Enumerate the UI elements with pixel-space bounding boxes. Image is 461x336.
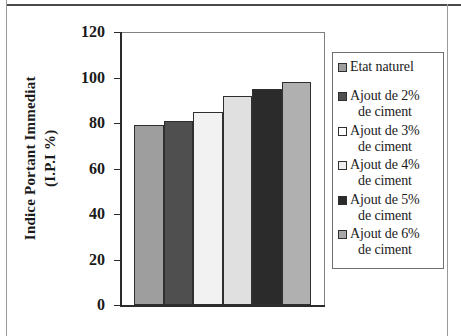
legend-item-label: Ajout de 6%de ciment [350,226,420,258]
legend-swatch-icon [338,127,347,136]
y-tick-40: 40 [114,214,120,215]
bar [223,96,253,305]
legend-swatch-icon [338,196,347,205]
legend-item[interactable]: Ajout de 2%de ciment [338,88,439,120]
y-tick-60: 60 [114,169,120,170]
y-tick-label-100: 100 [81,69,105,87]
legend-item-label-line2: de ciment [350,208,420,224]
plot-area: 120100806040200 [120,32,325,307]
legend-swatch-icon [338,161,347,170]
legend-item-label: Ajout de 3%de ciment [350,123,420,155]
page-edge-top-rule [7,4,461,6]
legend-item-label-line1: Ajout de 4% [350,157,420,172]
y-tick-120: 120 [114,32,120,33]
y-tick-label-0: 0 [97,296,105,314]
bar [252,89,282,305]
legend-item-label: Ajout de 4%de ciment [350,157,420,189]
y-tick-label-60: 60 [89,160,105,178]
legend-item-label-line1: Ajout de 2% [350,88,420,103]
legend-swatch-icon [338,92,347,101]
y-tick-label-120: 120 [81,23,105,41]
y-tick-0: 0 [114,305,120,306]
legend-item-label-line1: Etat naturel [350,59,414,74]
legend-swatch-icon [338,230,347,239]
y-tick-100: 100 [114,78,120,79]
legend-item-label-line2: de ciment [350,104,420,120]
legend-item-label: Ajout de 5%de ciment [350,192,420,224]
y-axis-title: Indice Portant Immediat (I.P.I %) [20,33,61,283]
y-axis-title-line1: Indice Portant Immediat [22,76,38,240]
legend-item[interactable]: Ajout de 4%de ciment [338,157,439,189]
bar [134,125,164,305]
page-edge-right-rule [447,4,448,336]
legend-item-label-line2: de ciment [350,139,420,155]
bar-chart-figure: Indice Portant Immediat (I.P.I %) 120100… [7,8,447,336]
legend-item[interactable]: Ajout de 3%de ciment [338,123,439,155]
legend-item[interactable]: Etat naturel [338,59,439,75]
legend-item-label-line1: Ajout de 3% [350,123,420,138]
y-axis-line [120,32,122,307]
y-tick-label-80: 80 [89,114,105,132]
x-axis-line [120,305,325,307]
y-tick-label-40: 40 [89,205,105,223]
y-tick-label-20: 20 [89,251,105,269]
legend-item[interactable]: Ajout de 6%de ciment [338,226,439,258]
legend-item-label: Ajout de 2%de ciment [350,88,420,120]
legend-item-label-line2: de ciment [350,173,420,189]
bar [193,112,223,305]
y-tick-80: 80 [114,123,120,124]
y-axis-title-line2: (I.P.I %) [40,33,60,283]
legend-item-label-line1: Ajout de 6% [350,226,420,241]
chart-legend: Etat naturelAjout de 2%de cimentAjout de… [332,52,444,269]
bar-series [134,32,311,305]
bar [164,121,194,305]
legend-item-label-line2: de ciment [350,242,420,258]
y-tick-20: 20 [114,260,120,261]
legend-item[interactable]: Ajout de 5%de ciment [338,192,439,224]
bar [282,82,312,305]
legend-swatch-icon [338,63,347,72]
legend-item-label: Etat naturel [350,59,414,75]
legend-item-label-line1: Ajout de 5% [350,192,420,207]
